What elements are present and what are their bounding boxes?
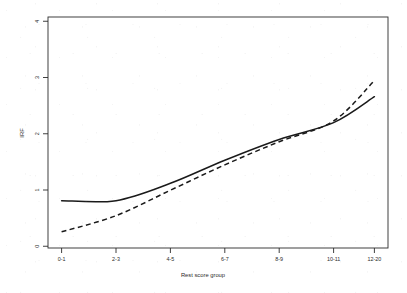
- irf-line-chart: 4 3 2 1 0 IRF 0-1 2-3 4-5 6-7 8-9 10-11 …: [0, 0, 407, 293]
- plot-frame: [48, 17, 388, 248]
- x-tick-label-2: 4-5: [167, 256, 175, 262]
- x-tick-label-5: 10-11: [327, 256, 340, 262]
- y-axis-title: IRF: [19, 128, 25, 138]
- y-tick-label-3: 3: [34, 76, 40, 79]
- x-tick-label-4: 8-9: [275, 256, 283, 262]
- x-tick-label-0: 0-1: [58, 256, 66, 262]
- x-tick-label-1: 2-3: [112, 256, 120, 262]
- y-tick-label-2: 2: [34, 132, 40, 135]
- y-tick-label-0: 0: [34, 245, 40, 248]
- y-axis: 4 3 2 1 0: [34, 20, 48, 248]
- figure-canvas: 4 3 2 1 0 IRF 0-1 2-3 4-5 6-7 8-9 10-11 …: [0, 0, 407, 293]
- series-solid-curve: [62, 97, 375, 202]
- x-tick-label-3: 6-7: [221, 256, 229, 262]
- x-axis-title: Rest score group: [181, 272, 225, 278]
- y-tick-label-4: 4: [34, 20, 40, 23]
- y-tick-label-1: 1: [34, 189, 40, 192]
- x-axis: 0-1 2-3 4-5 6-7 8-9 10-11 12-20: [58, 248, 382, 262]
- series-dashed-curve: [62, 81, 375, 232]
- x-tick-label-6: 12-20: [368, 256, 382, 262]
